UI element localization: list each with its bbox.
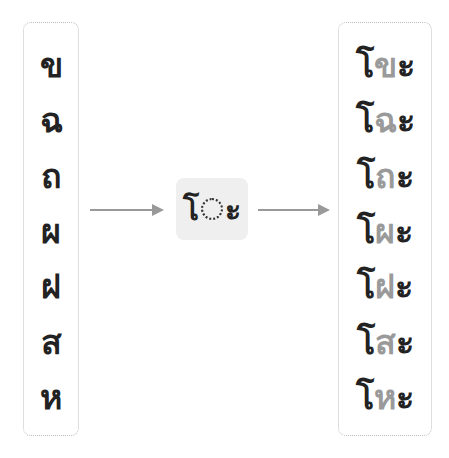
consonant: ฝ bbox=[41, 261, 61, 311]
syllable: โผะ bbox=[357, 206, 413, 256]
syllable: โขะ bbox=[356, 40, 415, 90]
arrow-right-icon bbox=[258, 209, 328, 211]
consonant: ผ bbox=[41, 206, 61, 256]
vowel-pattern: โ ะ bbox=[176, 178, 248, 240]
syllable: โฉะ bbox=[356, 95, 415, 145]
vowel-suffix: ะ bbox=[225, 186, 241, 233]
syllable: โสะ bbox=[357, 317, 414, 367]
consonant: ฉ bbox=[40, 95, 63, 145]
consonant: ส bbox=[41, 317, 62, 367]
syllable: โหะ bbox=[356, 372, 414, 422]
arrow-right-icon bbox=[90, 209, 162, 211]
consonant: ห bbox=[40, 372, 62, 422]
syllable: โถะ bbox=[357, 151, 414, 201]
consonant-list: ข ฉ ถ ผ ฝ ส ห bbox=[23, 22, 79, 436]
dotted-circle-icon bbox=[201, 198, 223, 220]
consonant: ข bbox=[40, 40, 63, 90]
consonant: ถ bbox=[41, 151, 62, 201]
vowel-prefix: โ bbox=[183, 186, 199, 233]
syllable-list: โขะ โฉะ โถะ โผะ โฝะ โสะ โหะ bbox=[338, 22, 432, 436]
syllable: โฝะ bbox=[357, 261, 413, 311]
